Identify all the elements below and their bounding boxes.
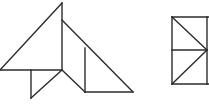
figure-canvas [0, 0, 209, 105]
